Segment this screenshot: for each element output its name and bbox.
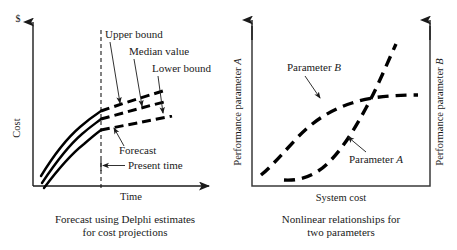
- parameter-a-label: Parameter A: [349, 153, 403, 165]
- right-panel-x-axis-label: System cost: [316, 192, 367, 203]
- parameter-b-label-text: Parameter: [287, 61, 334, 73]
- upper-bound-label: Upper bound: [105, 28, 163, 40]
- present-time-label: Present time: [128, 159, 183, 171]
- right-panel: Performance parameter A Performance para…: [232, 20, 445, 238]
- figure-canvas: $ Cost Time Upper bound Median value Low…: [0, 0, 457, 250]
- left-panel-x-axis-label: Time: [120, 191, 142, 202]
- median-value-label: Median value: [129, 45, 189, 57]
- left-panel: $ Cost Time Upper bound Median value Low…: [11, 13, 211, 238]
- right-panel-caption-line2: two parameters: [307, 226, 375, 238]
- right-panel-y-axis-right-label: Performance parameter B: [434, 58, 445, 166]
- median-value-history-curve: [42, 119, 101, 183]
- lower-bound-leader-line: [158, 76, 163, 113]
- forecast-label: Forecast: [119, 144, 156, 156]
- right-panel-caption-line1: Nonlinear relationships for: [282, 213, 401, 225]
- lower-bound-forecast-curve: [101, 116, 172, 130]
- right-panel-y-axis-left-label: Performance parameter A: [232, 58, 243, 166]
- right-panel-plot-box: [252, 26, 430, 186]
- left-panel-y-axis-label: Cost: [11, 118, 22, 137]
- median-value-forecast-curve: [101, 101, 168, 119]
- left-panel-currency-label: $: [16, 13, 21, 24]
- upper-bound-forecast-curve: [101, 91, 163, 111]
- parameter-a-label-text: Parameter: [349, 153, 396, 165]
- left-panel-caption-line2: for cost projections: [83, 226, 168, 238]
- upper-bound-leader-line: [110, 42, 120, 103]
- figure-root: $ Cost Time Upper bound Median value Low…: [0, 0, 457, 250]
- left-panel-caption-line1: Forecast using Delphi estimates: [55, 213, 195, 225]
- lower-bound-label: Lower bound: [152, 62, 211, 74]
- parameter-b-label: Parameter B: [287, 61, 341, 73]
- parameter-b-leader-line: [305, 76, 320, 98]
- parameter-a-leader-line: [348, 137, 366, 152]
